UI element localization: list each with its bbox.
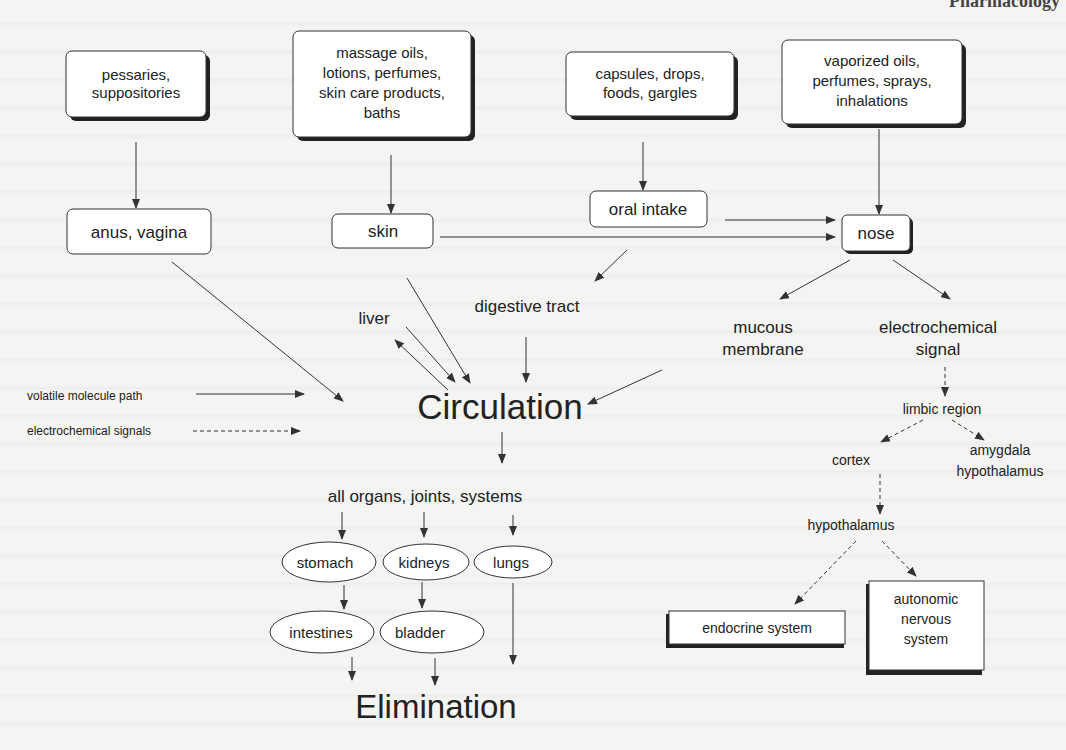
- label-digestive-tract: digestive tract: [475, 297, 580, 316]
- label-cortex: cortex: [832, 452, 870, 468]
- organ-intestines: intestines: [270, 611, 374, 653]
- organ-bladder: bladder: [380, 611, 484, 653]
- label-mucous-membrane-1: mucous: [733, 318, 793, 337]
- svg-text:nose: nose: [858, 224, 895, 243]
- source-text-line: perfumes, sprays,: [812, 72, 931, 89]
- svg-text:bladder: bladder: [395, 624, 445, 641]
- organ-stomach: stomach: [282, 542, 376, 582]
- source-text-line: baths: [364, 104, 401, 121]
- svg-text:skin: skin: [368, 222, 398, 241]
- svg-text:intestines: intestines: [289, 624, 352, 641]
- source-text-line: massage oils,: [336, 44, 428, 61]
- source-text-line: inhalations: [836, 92, 908, 109]
- legend: volatile molecule path electrochemical s…: [27, 389, 151, 438]
- entry-box-anus-vagina: anus, vagina: [67, 209, 211, 254]
- label-circulation: Circulation: [417, 387, 582, 426]
- label-amygdala: amygdala: [970, 442, 1031, 458]
- label-elimination: Elimination: [355, 688, 516, 725]
- entry-box-oral-intake: oral intake: [590, 191, 707, 227]
- svg-text:nervous: nervous: [901, 611, 951, 627]
- svg-text:system: system: [904, 631, 948, 647]
- label-amygdala-hypothalamus: hypothalamus: [956, 463, 1043, 479]
- source-text-line: suppositories: [92, 84, 180, 101]
- svg-text:lungs: lungs: [493, 554, 529, 571]
- entry-box-skin: skin: [332, 214, 433, 248]
- label-mucous-membrane-2: membrane: [722, 340, 803, 359]
- label-limbic-region: limbic region: [903, 401, 982, 417]
- label-all-organs: all organs, joints, systems: [328, 487, 523, 506]
- source-box-vaporized: vaporized oils, perfumes, sprays, inhala…: [782, 40, 966, 128]
- aromatherapy-pathway-diagram: pessaries, suppositories massage oils, l…: [0, 0, 1066, 750]
- organ-lungs: lungs: [474, 546, 552, 578]
- source-text-line: foods, gargles: [603, 84, 697, 101]
- label-electrochemical-signal-1: electrochemical: [879, 318, 997, 337]
- source-text-line: lotions, perfumes,: [323, 64, 441, 81]
- svg-text:kidneys: kidneys: [399, 554, 450, 571]
- svg-text:endocrine system: endocrine system: [702, 620, 812, 636]
- label-liver: liver: [358, 309, 390, 328]
- label-electrochemical-signal-2: signal: [916, 340, 960, 359]
- svg-text:stomach: stomach: [297, 554, 354, 571]
- source-text-line: vaporized oils,: [824, 52, 920, 69]
- entry-box-nose: nose: [842, 215, 913, 254]
- source-text-line: skin care products,: [319, 84, 445, 101]
- source-box-capsules: capsules, drops, foods, gargles: [566, 52, 738, 120]
- source-box-massage: massage oils, lotions, perfumes, skin ca…: [293, 31, 475, 141]
- source-box-pessaries: pessaries, suppositories: [66, 51, 210, 121]
- box-autonomic-nervous-system: autonomic nervous system: [866, 581, 984, 675]
- svg-text:anus, vagina: anus, vagina: [91, 223, 188, 242]
- organ-kidneys: kidneys: [383, 544, 469, 580]
- legend-solid-label: volatile molecule path: [27, 389, 142, 403]
- source-text-line: capsules, drops,: [595, 65, 704, 82]
- box-endocrine-system: endocrine system: [666, 611, 845, 648]
- legend-dashed-label: electrochemical signals: [27, 424, 151, 438]
- svg-text:oral intake: oral intake: [609, 200, 687, 219]
- label-hypothalamus: hypothalamus: [807, 517, 894, 533]
- svg-text:autonomic: autonomic: [894, 591, 959, 607]
- source-text-line: pessaries,: [102, 66, 170, 83]
